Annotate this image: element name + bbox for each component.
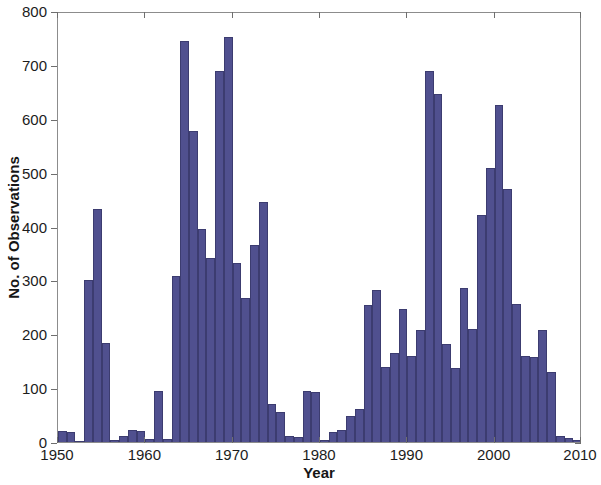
bar	[75, 441, 84, 443]
x-tick-label: 1990	[376, 446, 436, 463]
bar	[84, 280, 93, 442]
x-tick-label: 1980	[289, 446, 349, 463]
bar	[58, 431, 67, 442]
bar	[486, 168, 495, 442]
bar	[468, 329, 477, 442]
x-tick-mark	[57, 437, 58, 443]
bar	[285, 436, 294, 442]
x-tick-label: 1960	[114, 446, 174, 463]
x-tick-mark-top	[319, 12, 320, 18]
bar	[451, 368, 460, 442]
bar	[372, 290, 381, 442]
y-tick-label: 600	[0, 111, 47, 128]
x-tick-mark	[494, 437, 495, 443]
bar	[215, 71, 224, 442]
y-tick-mark-right	[575, 443, 581, 444]
x-tick-label: 2000	[464, 446, 524, 463]
x-tick-label: 1970	[202, 446, 262, 463]
bar	[329, 432, 338, 442]
bar	[530, 357, 539, 442]
bar	[538, 330, 547, 442]
bar	[320, 440, 329, 442]
bar	[390, 353, 399, 442]
x-tick-mark-top	[494, 12, 495, 18]
bar	[303, 391, 312, 442]
y-tick-mark	[51, 443, 57, 444]
bar	[145, 439, 154, 442]
bar	[206, 258, 215, 442]
bar	[180, 41, 189, 442]
plot-area	[57, 12, 581, 443]
bar	[233, 263, 242, 442]
x-tick-mark	[319, 437, 320, 443]
x-tick-mark	[144, 437, 145, 443]
bar	[128, 430, 137, 442]
y-tick-label: 800	[0, 3, 47, 20]
bar	[547, 372, 556, 442]
y-tick-label: 100	[0, 380, 47, 397]
bar	[110, 440, 119, 442]
y-tick-label: 300	[0, 272, 47, 289]
bar	[268, 404, 277, 442]
x-axis-title: Year	[57, 464, 581, 481]
bar	[416, 330, 425, 442]
x-tick-mark	[580, 437, 581, 443]
bar	[425, 71, 434, 442]
x-tick-mark-top	[406, 12, 407, 18]
bar	[294, 437, 303, 442]
bar	[399, 309, 408, 442]
bar	[67, 432, 76, 442]
bar	[565, 438, 574, 442]
bar	[346, 416, 355, 442]
bar	[154, 391, 163, 442]
bar	[224, 37, 233, 442]
bar	[556, 436, 565, 442]
x-tick-mark	[406, 437, 407, 443]
bar	[521, 356, 530, 442]
bar	[442, 344, 451, 442]
bar	[355, 409, 364, 442]
x-tick-mark-top	[144, 12, 145, 18]
x-tick-label: 2010	[550, 446, 601, 463]
bar	[189, 131, 198, 442]
bar	[364, 305, 373, 442]
bar	[102, 343, 111, 442]
bar	[276, 412, 285, 442]
bar	[163, 439, 172, 442]
bar	[512, 304, 521, 442]
bar	[477, 215, 486, 442]
bar	[93, 209, 102, 442]
x-tick-mark-top	[580, 12, 581, 18]
x-tick-mark-top	[232, 12, 233, 18]
bar	[503, 189, 512, 442]
bar	[259, 202, 268, 442]
bar	[311, 392, 320, 442]
bar	[495, 105, 504, 442]
x-tick-mark-top	[57, 12, 58, 18]
bar	[250, 245, 259, 442]
y-tick-label: 200	[0, 326, 47, 343]
x-tick-label: 1950	[27, 446, 87, 463]
y-tick-label: 400	[0, 219, 47, 236]
bar	[381, 367, 390, 442]
y-tick-label: 700	[0, 57, 47, 74]
bar	[434, 94, 443, 442]
bar	[241, 298, 250, 442]
bar	[460, 288, 469, 442]
bar	[407, 356, 416, 442]
bar-series	[58, 13, 580, 442]
bar	[337, 430, 346, 442]
bar	[119, 436, 128, 442]
y-tick-label: 500	[0, 165, 47, 182]
bar	[198, 229, 207, 442]
bar	[172, 276, 181, 442]
x-tick-mark	[232, 437, 233, 443]
